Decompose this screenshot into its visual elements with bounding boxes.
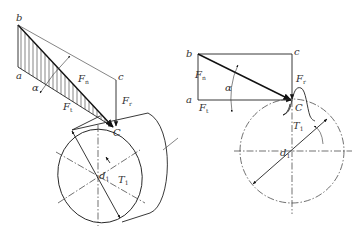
- label-alpha-left: α: [32, 82, 39, 93]
- label-fr-left: Fr: [121, 95, 132, 107]
- label-alpha-right: α: [225, 82, 232, 93]
- label-fn-left: Fn: [77, 73, 89, 85]
- alpha-arc-left: [40, 56, 70, 93]
- right-figure: b a c α Fn Ft Fr C T1 d1: [186, 46, 352, 214]
- torque-arrow-left: [106, 157, 110, 163]
- label-fn-right: Fn: [194, 69, 206, 81]
- label-t1-right: T1: [293, 120, 304, 132]
- label-c-left: c: [118, 71, 124, 82]
- fn-vector-right: [198, 54, 291, 100]
- label-b-left: b: [16, 12, 22, 23]
- diameter-line-left: [72, 131, 120, 218]
- label-ft-right: Ft: [198, 102, 209, 114]
- label-a-right: a: [186, 94, 192, 105]
- left-figure: b a c α Fn Ft Fr C: [16, 12, 178, 231]
- label-t1-left: T1: [118, 174, 129, 186]
- label-a-left: a: [16, 70, 22, 81]
- label-contact-point-right: C: [295, 102, 303, 113]
- label-c-right: c: [294, 46, 300, 57]
- label-fr-right: Fr: [295, 73, 306, 85]
- label-ft-left: Ft: [62, 101, 73, 113]
- label-d1-right: d1: [280, 147, 290, 159]
- label-b-right: b: [186, 48, 192, 59]
- label-d1-left: d1: [99, 170, 109, 182]
